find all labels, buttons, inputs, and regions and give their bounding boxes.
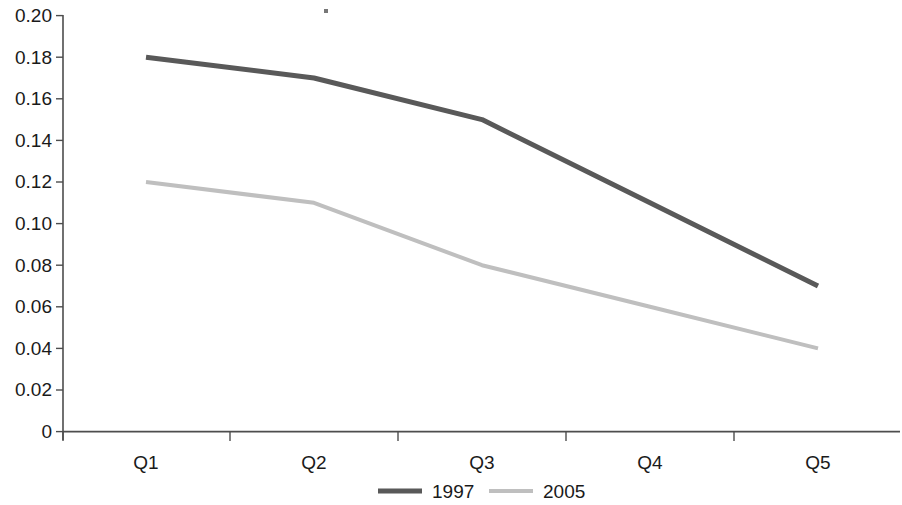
y-tick-label: 0.14: [15, 130, 52, 151]
x-tick-label: Q2: [301, 452, 326, 473]
y-tick-label: 0.02: [15, 379, 52, 400]
series-line-1997: [146, 57, 818, 286]
x-axis-ticks: [63, 432, 734, 441]
line-chart: 0.20 0.18 0.16 0.14 0.12 0.10 0.08 0.06 …: [0, 0, 902, 505]
y-axis-ticks: [56, 16, 63, 432]
x-tick-label: Q3: [469, 452, 494, 473]
legend-label-2005: 2005: [543, 481, 585, 502]
y-axis-tick-labels: 0.20 0.18 0.16 0.14 0.12 0.10 0.08 0.06 …: [15, 5, 52, 442]
chart-legend: 1997 2005: [378, 481, 585, 502]
scan-speck: [324, 9, 328, 13]
y-tick-label: 0.16: [15, 88, 52, 109]
y-tick-label: 0.10: [15, 213, 52, 234]
x-tick-label: Q5: [805, 452, 830, 473]
y-tick-label: 0.20: [15, 5, 52, 26]
x-axis-tick-labels: Q1 Q2 Q3 Q4 Q5: [133, 452, 830, 473]
y-tick-label: 0.06: [15, 296, 52, 317]
y-tick-label: 0.18: [15, 47, 52, 68]
y-tick-label: 0.08: [15, 255, 52, 276]
y-tick-label: 0.12: [15, 171, 52, 192]
legend-label-1997: 1997: [432, 481, 474, 502]
chart-canvas: 0.20 0.18 0.16 0.14 0.12 0.10 0.08 0.06 …: [0, 0, 902, 505]
x-tick-label: Q1: [133, 452, 158, 473]
series-line-2005: [146, 182, 818, 348]
y-tick-label: 0.04: [15, 338, 52, 359]
y-tick-label: 0: [41, 421, 52, 442]
x-tick-label: Q4: [637, 452, 663, 473]
